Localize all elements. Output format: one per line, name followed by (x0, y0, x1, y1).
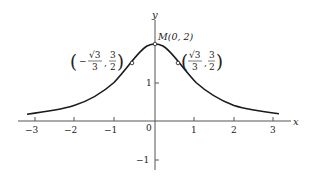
left-point-label: ( − √3 3 , 3 2 ) (70, 50, 124, 72)
svg-text:√3: √3 (189, 50, 201, 60)
svg-text:√3: √3 (89, 50, 101, 60)
x-tick-label: 3 (270, 125, 276, 135)
svg-text:): ) (216, 51, 223, 72)
svg-text:2: 2 (209, 62, 215, 72)
svg-text:2: 2 (110, 62, 116, 72)
x-tick-label: 2 (231, 125, 237, 135)
y-axis-label: y (151, 9, 158, 20)
peak-label-text: M(0, 2) (157, 31, 194, 42)
function-curve (27, 44, 279, 114)
origin-label: 0 (146, 123, 152, 133)
svg-text:−: − (79, 56, 87, 66)
left-inflection-point (130, 61, 134, 65)
svg-text:): ) (117, 51, 124, 72)
x-tick-label: 1 (191, 125, 197, 135)
x-axis-label: x (293, 116, 299, 127)
svg-text:(: ( (181, 51, 188, 72)
x-tick-label: −1 (104, 125, 117, 135)
right-point-label: ( √3 3 , 3 2 ) (181, 50, 223, 72)
x-tick-label: −3 (25, 125, 39, 135)
svg-text:,: , (204, 58, 207, 68)
peak-point (153, 42, 157, 46)
svg-text:3: 3 (209, 50, 215, 60)
svg-text:3: 3 (92, 62, 98, 72)
peak-label: M(0, 2) (157, 31, 194, 42)
svg-text:(: ( (70, 51, 77, 72)
svg-text:,: , (104, 58, 107, 68)
x-tick-label: −2 (64, 125, 77, 135)
svg-text:3: 3 (110, 50, 116, 60)
right-inflection-point (176, 61, 180, 65)
svg-text:3: 3 (192, 62, 198, 72)
y-tick-label: 1 (146, 78, 152, 88)
y-tick-label: −1 (136, 155, 149, 165)
function-plot: x y 0 −3 −2 −1 1 2 3 1 −1 M(0, 2) ( − √3… (0, 0, 316, 177)
